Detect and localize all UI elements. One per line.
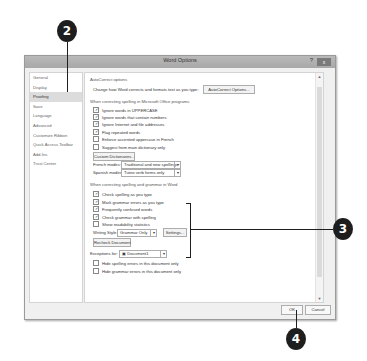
checkbox-label: Hide spelling errors in this document on…	[102, 261, 179, 266]
callout-2: 2	[57, 20, 77, 42]
scroll-thumb[interactable]	[317, 87, 322, 277]
checkbox-grammar-with-spelling[interactable]: ✓Check grammar with spelling	[93, 214, 156, 220]
title-bar[interactable]: Word Options ? x	[25, 56, 335, 68]
checkbox[interactable]: ✓	[93, 129, 99, 135]
settings-button[interactable]: Settings...	[163, 228, 187, 237]
callout-4-leader	[296, 310, 297, 328]
french-modes-value: Traditional and new spellings	[124, 162, 178, 167]
options-nav: General Display Proofing Save Language A…	[29, 72, 83, 303]
ok-button[interactable]: OK	[281, 305, 303, 315]
checkbox-hide-grammar[interactable]: Hide grammar errors in this document onl…	[93, 268, 181, 274]
autocorrect-heading: AutoCorrect options	[90, 77, 127, 82]
cancel-button[interactable]: Cancel	[305, 305, 331, 315]
writing-style-label: Writing Style:	[93, 230, 118, 235]
nav-item-customize-ribbon[interactable]: Customize Ribbon	[30, 131, 82, 141]
checkbox-main-dictionary[interactable]: Suggest from main dictionary only	[93, 144, 165, 150]
checkbox-label: Ignore words in UPPERCASE	[102, 108, 158, 113]
chevron-down-icon: ▾	[174, 162, 180, 168]
nav-item-language[interactable]: Language	[30, 111, 82, 121]
checkbox[interactable]: ✓	[93, 114, 99, 120]
checkbox-enforce-accented[interactable]: Enforce accented uppercase in French	[93, 136, 174, 142]
word-spelling-heading: When correcting spelling and grammar in …	[90, 182, 177, 187]
checkbox[interactable]: ✓	[93, 121, 99, 127]
word-options-dialog: Word Options ? x General Display Proofin…	[24, 55, 336, 320]
checkbox-readability[interactable]: Show readability statistics	[93, 221, 150, 227]
office-spelling-heading: When correcting spelling in Microsoft Of…	[90, 99, 189, 104]
checkbox-label: Hide grammar errors in this document onl…	[102, 269, 181, 274]
checkbox-label: Ignore words that contain numbers	[102, 115, 166, 120]
checkbox[interactable]: ✓	[93, 191, 99, 197]
custom-dictionaries-button[interactable]: Custom Dictionaries...	[93, 152, 135, 161]
window-title: Word Options	[25, 57, 335, 63]
callout-4: 4	[286, 328, 306, 350]
help-icon[interactable]: ?	[310, 57, 313, 63]
checkbox-label: Suggest from main dictionary only	[102, 145, 165, 150]
nav-item-general[interactable]: General	[30, 73, 82, 83]
checkbox-label: Flag repeated words	[102, 130, 140, 135]
nav-item-proofing[interactable]: Proofing	[30, 92, 82, 102]
checkbox-label: Check grammar with spelling	[102, 215, 156, 220]
document-icon: ▣	[122, 251, 126, 256]
nav-item-trust-center[interactable]: Trust Center	[30, 159, 82, 169]
spanish-modes-label: Spanish modes:	[93, 170, 123, 175]
scroll-down-icon[interactable]: ▼	[316, 296, 323, 301]
checkbox-ignore-uppercase[interactable]: ✓Ignore words in UPPERCASE	[93, 107, 158, 113]
proofing-content: AutoCorrect options Change how Word corr…	[84, 72, 324, 303]
checkbox-label: Show readability statistics	[102, 222, 150, 227]
checkbox[interactable]	[93, 221, 99, 227]
callout-3-leader	[190, 229, 333, 230]
checkbox-label: Frequently confused words	[102, 207, 152, 212]
checkbox-ignore-numbers[interactable]: ✓Ignore words that contain numbers	[93, 114, 166, 120]
spanish-modes-select[interactable]: Tuteo verb forms only▾	[121, 169, 181, 177]
french-modes-label: French modes:	[93, 162, 121, 167]
nav-item-add-ins[interactable]: Add-Ins	[30, 150, 82, 160]
checkbox-label: Mark grammar errors as you type	[102, 200, 164, 205]
chevron-down-icon: ▾	[174, 170, 180, 176]
nav-item-quick-access-toolbar[interactable]: Quick Access Toolbar	[30, 140, 82, 150]
checkbox[interactable]	[93, 144, 99, 150]
writing-style-select[interactable]: Grammar Only▾	[117, 229, 157, 237]
checkbox-label: Ignore Internet and file addresses	[102, 122, 164, 127]
checkbox[interactable]: ✓	[93, 214, 99, 220]
checkbox-flag-repeated[interactable]: ✓Flag repeated words	[93, 129, 140, 135]
checkbox-confused-words[interactable]: ✓Frequently confused words	[93, 206, 152, 212]
exceptions-document-select[interactable]: ▣ Document1▾	[119, 250, 167, 258]
nav-item-display[interactable]: Display	[30, 83, 82, 93]
callout-3-bracket	[186, 203, 191, 258]
autocorrect-description: Change how Word corrects and formats tex…	[93, 87, 199, 92]
french-modes-select[interactable]: Traditional and new spellings▾	[121, 161, 181, 169]
callout-2-leader	[67, 42, 68, 92]
recheck-document-button[interactable]: Recheck Document	[93, 238, 131, 247]
chevron-down-icon: ▾	[160, 251, 166, 257]
checkbox[interactable]: ✓	[93, 199, 99, 205]
exceptions-label: Exceptions for:	[90, 251, 118, 256]
checkbox[interactable]	[93, 260, 99, 266]
nav-item-advanced[interactable]: Advanced	[30, 121, 82, 131]
spanish-modes-value: Tuteo verb forms only	[124, 170, 164, 175]
checkbox[interactable]: ✓	[93, 107, 99, 113]
checkbox[interactable]	[93, 136, 99, 142]
autocorrect-options-button[interactable]: AutoCorrect Options...	[203, 85, 255, 94]
vertical-scrollbar[interactable]: ▲ ▼	[315, 73, 323, 302]
checkbox-check-spelling[interactable]: ✓Check spelling as you type	[93, 191, 152, 197]
checkbox-hide-spelling[interactable]: Hide spelling errors in this document on…	[93, 260, 179, 266]
callout-3: 3	[333, 218, 353, 240]
checkbox[interactable]	[93, 268, 99, 274]
checkbox[interactable]: ✓	[93, 206, 99, 212]
checkbox-ignore-internet[interactable]: ✓Ignore Internet and file addresses	[93, 121, 164, 127]
chevron-down-icon: ▾	[150, 230, 156, 236]
checkbox-label: Check spelling as you type	[102, 192, 152, 197]
exceptions-document-value: Document1	[127, 251, 148, 256]
close-button[interactable]: x	[317, 58, 331, 66]
writing-style-value: Grammar Only	[120, 230, 147, 235]
checkbox-label: Enforce accented uppercase in French	[102, 137, 174, 142]
scroll-up-icon[interactable]: ▲	[316, 74, 323, 79]
checkbox-mark-grammar[interactable]: ✓Mark grammar errors as you type	[93, 199, 164, 205]
nav-item-save[interactable]: Save	[30, 102, 82, 112]
